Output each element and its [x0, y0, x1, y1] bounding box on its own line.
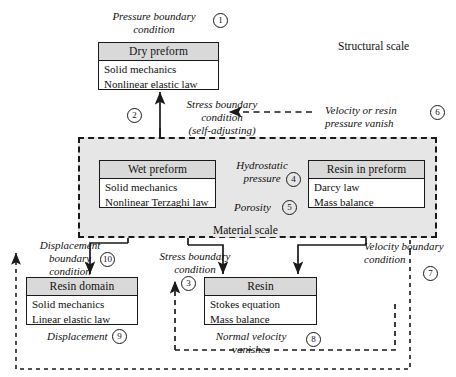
- box-resin-line-2: Mass balance: [210, 312, 316, 327]
- label-stress-boundary-condition: Stress boundary condition: [140, 250, 250, 276]
- diagram-canvas: Dry preform Solid mechanics Nonlinear el…: [0, 0, 456, 377]
- box-dry-preform[interactable]: Dry preform Solid mechanics Nonlinear el…: [98, 42, 219, 90]
- marker-8: 8: [306, 332, 321, 347]
- label-pressure-boundary-condition: Pressure boundary condition: [100, 10, 208, 36]
- marker-6: 6: [430, 105, 445, 120]
- label-porosity: Porosity: [234, 201, 271, 214]
- label-velocity-bc-text: Velocity boundary condition: [364, 240, 456, 266]
- marker-9: 9: [112, 329, 127, 344]
- label-material-scale: Material scale: [213, 224, 278, 237]
- box-resin-in-preform-body: Darcy law Mass balance: [309, 179, 424, 210]
- box-resin-domain-body: Solid mechanics Linear elastic law: [27, 296, 137, 327]
- box-resin-domain-line-1: Solid mechanics: [32, 297, 137, 312]
- box-resin-domain-line-2: Linear elastic law: [32, 312, 137, 327]
- box-dry-preform-body: Solid mechanics Nonlinear elastic law: [99, 61, 218, 92]
- box-resin-domain[interactable]: Resin domain Solid mechanics Linear elas…: [26, 277, 138, 325]
- box-wet-preform-line-2: Nonlinear Terzaghi law: [105, 195, 215, 210]
- box-resin-domain-header: Resin domain: [27, 278, 137, 296]
- label-stress-bc-text: Stress boundary condition: [140, 250, 250, 276]
- label-normal-velocity-text: Normal velocity vanishes: [196, 330, 306, 356]
- marker-4: 4: [286, 172, 301, 187]
- edge-resin-in-preform-elbow: [298, 245, 366, 274]
- box-resin-in-preform[interactable]: Resin in preform Darcy law Mass balance: [308, 160, 425, 208]
- label-structural-scale: Structural scale: [338, 40, 409, 53]
- label-displacement: Displacement: [47, 330, 107, 343]
- box-wet-preform[interactable]: Wet preform Solid mechanics Nonlinear Te…: [99, 160, 216, 208]
- marker-5: 5: [282, 200, 297, 215]
- label-normal-velocity-vanishes: Normal velocity vanishes: [196, 330, 306, 356]
- label-stress-boundary-self-text: Stress boundary condition (self-adjustin…: [167, 98, 277, 137]
- marker-3: 3: [181, 276, 196, 291]
- box-dry-preform-header: Dry preform: [99, 43, 218, 61]
- label-velocity-boundary-condition: Velocity boundary condition: [364, 240, 456, 266]
- box-resin-in-preform-line-2: Mass balance: [314, 195, 424, 210]
- box-wet-preform-body: Solid mechanics Nonlinear Terzaghi law: [100, 179, 215, 210]
- label-stress-boundary-condition-self-adjusting: Stress boundary condition (self-adjustin…: [167, 98, 277, 137]
- marker-2: 2: [127, 108, 142, 123]
- box-dry-preform-line-1: Solid mechanics: [104, 62, 218, 77]
- marker-10: 10: [100, 252, 115, 267]
- box-wet-preform-line-1: Solid mechanics: [105, 180, 215, 195]
- label-pressure-boundary-condition-text: Pressure boundary condition: [100, 10, 208, 36]
- box-resin-in-preform-header: Resin in preform: [309, 161, 424, 179]
- box-dry-preform-line-2: Nonlinear elastic law: [104, 77, 218, 92]
- box-resin[interactable]: Resin Stokes equation Mass balance: [204, 277, 317, 325]
- box-resin-header: Resin: [205, 278, 316, 296]
- marker-1: 1: [213, 13, 228, 28]
- box-wet-preform-header: Wet preform: [100, 161, 215, 179]
- box-resin-body: Stokes equation Mass balance: [205, 296, 316, 327]
- marker-7: 7: [423, 266, 438, 281]
- box-resin-line-1: Stokes equation: [210, 297, 316, 312]
- box-resin-in-preform-line-1: Darcy law: [314, 180, 424, 195]
- label-velocity-resin-vanish-text: Velocity or resin pressure vanish: [325, 104, 425, 130]
- label-velocity-or-resin-pressure-vanish: Velocity or resin pressure vanish: [325, 104, 425, 130]
